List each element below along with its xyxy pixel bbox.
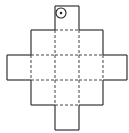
net-diagram — [0, 0, 129, 133]
net-outline — [7, 6, 127, 130]
fold-lines — [31, 30, 103, 105]
dot-circle-icon — [56, 8, 66, 18]
